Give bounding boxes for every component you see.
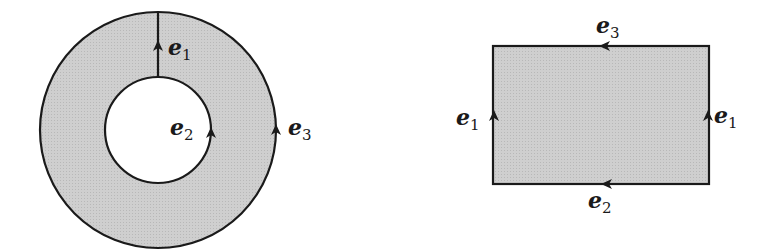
label-left-e1: e1 <box>456 104 480 134</box>
label-e3: e3 <box>288 114 312 144</box>
rectangle-fill <box>493 46 709 184</box>
label-bottom-e2: e2 <box>588 187 612 217</box>
label-right-e1: e1 <box>714 102 738 132</box>
diagram-canvas: e1 e2 e3 e3 e1 e1 e2 <box>0 0 761 250</box>
label-e2: e2 <box>170 114 194 144</box>
annulus-figure: e1 e2 e3 <box>40 12 312 248</box>
label-top-e3: e3 <box>596 12 620 42</box>
rectangle-figure: e3 e1 e1 e2 <box>456 12 738 217</box>
inner-circle-edge-e2 <box>105 77 211 183</box>
